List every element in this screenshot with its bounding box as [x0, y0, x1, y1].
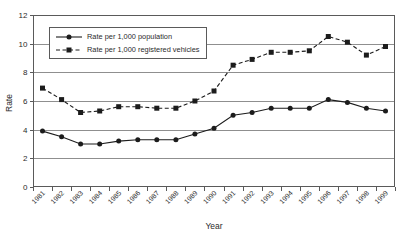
x-tick-label: 1998 [354, 189, 370, 205]
x-tick-label: 1982 [49, 189, 65, 205]
x-tick-label: 1991 [221, 189, 237, 205]
population-series-point [116, 139, 121, 144]
y-tick-label: 6 [23, 97, 28, 106]
x-tick-label: 1981 [30, 189, 46, 205]
registered-vehicles-series-point [40, 86, 45, 91]
registered-vehicles-series-point [383, 44, 388, 49]
registered-vehicles-series-point [307, 48, 312, 53]
x-tick-label: 1986 [126, 189, 142, 205]
population-series-point [154, 137, 159, 142]
legend-item-population: Rate per 1,000 population [55, 31, 200, 42]
population-series-point [383, 109, 388, 114]
x-tick-label: 1984 [87, 189, 103, 205]
population-series-point [78, 142, 83, 147]
population-series-point [231, 113, 236, 118]
population-series-point [269, 106, 274, 111]
y-tick-label: 8 [23, 68, 28, 77]
population-series-point [364, 106, 369, 111]
rate-line-chart-figure: 0246810121981198219831984198519861987198… [0, 0, 403, 239]
population-series-point [345, 100, 350, 105]
registered-vehicles-series-point [135, 104, 140, 109]
legend: Rate per 1,000 population Rate per 1,000… [49, 27, 207, 59]
x-tick-label: 1987 [145, 189, 161, 205]
x-tick-label: 1994 [278, 189, 294, 205]
x-axis-title: Year [33, 221, 395, 231]
x-tick-label: 1990 [202, 189, 218, 205]
registered-vehicles-series-point [231, 63, 236, 68]
x-tick-label: 1997 [335, 189, 351, 205]
x-tick-label: 1989 [183, 189, 199, 205]
registered-vehicles-series-point [364, 53, 369, 58]
solid-line-circle-marker-icon [55, 32, 83, 42]
registered-vehicles-series-point [288, 50, 293, 55]
population-series-point [97, 142, 102, 147]
registered-vehicles-series-point [59, 97, 64, 102]
legend-label-registered-vehicles: Rate per 1,000 registered vehicles [87, 45, 200, 54]
x-tick-label: 1996 [316, 189, 332, 205]
population-series-point [192, 132, 197, 137]
x-tick-label: 1993 [259, 189, 275, 205]
y-tick-label: 0 [23, 183, 28, 192]
population-series-point [212, 126, 217, 131]
x-tick-label: 1983 [68, 189, 84, 205]
registered-vehicles-series-point [97, 109, 102, 114]
x-tick-label: 1995 [297, 189, 313, 205]
y-tick-label: 2 [23, 154, 28, 163]
x-tick-label: 1988 [164, 189, 180, 205]
registered-vehicles-series-point [116, 104, 121, 109]
population-series-point [326, 97, 331, 102]
legend-item-registered-vehicles: Rate per 1,000 registered vehicles [55, 44, 200, 55]
y-tick-label: 10 [19, 40, 28, 49]
population-series-point [288, 106, 293, 111]
population-series-point [173, 137, 178, 142]
registered-vehicles-series-point [78, 110, 83, 115]
population-series-point [40, 129, 45, 134]
x-tick-label: 1992 [240, 189, 256, 205]
registered-vehicles-series-point [212, 89, 217, 94]
population-series-point [250, 110, 255, 115]
registered-vehicles-series-point [269, 50, 274, 55]
y-axis-title: Rate [4, 94, 14, 112]
registered-vehicles-series-point [154, 106, 159, 111]
population-series-point [59, 134, 64, 139]
x-tick-label: 1999 [373, 189, 389, 205]
registered-vehicles-series-point [250, 57, 255, 62]
registered-vehicles-series-point [173, 106, 178, 111]
population-series-point [307, 106, 312, 111]
x-tick-label: 1985 [106, 189, 122, 205]
y-tick-label: 12 [19, 11, 28, 20]
registered-vehicles-series-point [326, 34, 331, 39]
dashed-line-square-marker-icon [55, 45, 83, 55]
y-tick-label: 4 [23, 126, 28, 135]
legend-label-population: Rate per 1,000 population [87, 32, 172, 41]
population-series-line [43, 100, 386, 144]
registered-vehicles-series-point [345, 40, 350, 45]
registered-vehicles-series-point [192, 99, 197, 104]
population-series-point [135, 137, 140, 142]
